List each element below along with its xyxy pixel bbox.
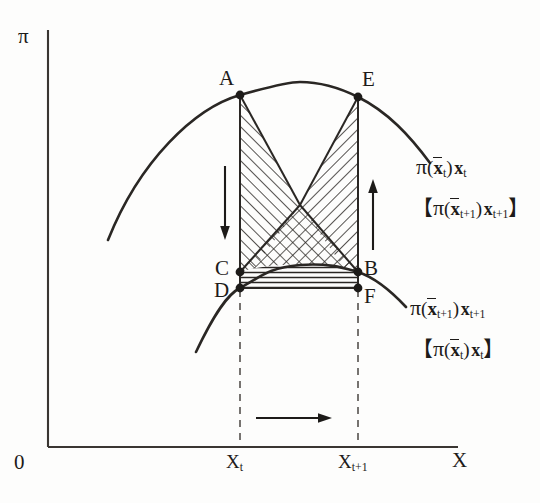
upper-bracket-arg-sub: t+1 [460,208,476,221]
x-tick-xt1-sub: t+1 [352,461,368,474]
lower-curve-bracket-label: 【π(xt) xt】 [412,338,504,362]
point-label-E: E [362,69,375,90]
x-tick-xt-main: X [226,451,240,472]
x-tick-xt1-main: X [338,451,352,472]
upper-bracket-xbar: x [450,199,460,218]
upper-curve-tail-sub: t [463,167,466,180]
upper-curve-label: π(xt) xt [416,156,466,180]
bracket-close-lower: 】 [483,337,504,361]
lower-curve-arg-sub: t+1 [437,308,453,321]
bracket-open-upper: 【 [412,196,433,220]
upper-bracket-pi: π [433,195,444,220]
lower-bracket-pi: π [433,336,444,361]
upper-curve-tail-x: x [454,158,463,178]
lower-curve-pi: π [410,295,421,320]
x-tick-xt1: Xt+1 [338,452,368,474]
down-arrow-left [220,166,230,240]
diagram-canvas [0,0,540,503]
x-axis-label: X [452,450,467,471]
origin-label: 0 [14,452,25,473]
upper-curve-pi: π [416,154,427,179]
y-axis-label: π [18,26,29,47]
lower-curve-tail-sub: t+1 [470,308,486,321]
point-label-D: D [214,280,229,301]
lower-bracket-xbar: x [450,340,460,359]
upper-curve-bracket-label: 【π(xt+1) xt+1】 [412,197,529,221]
x-tick-xt-sub: t [240,461,243,474]
bracket-open-lower: 【 [412,337,433,361]
lower-bracket-tail-x: x [471,340,480,360]
up-arrow-right [368,179,378,250]
lower-curve-label: π(xt+1) xt+1 [410,297,485,321]
bracket-close-upper: 】 [508,196,529,220]
lower-curve-xbar: x [427,299,437,318]
x-tick-xt: Xt [226,452,243,474]
upper-bracket-tail-sub: t+1 [493,208,509,221]
profit-function-diagram: π 0 X Xt Xt+1 A E C D B F π(xt) xt 【π(xt… [0,0,540,503]
right-arrow-bottom [256,413,332,423]
point-label-A: A [219,68,234,89]
point-label-C: C [215,258,229,279]
point-label-B: B [364,258,378,279]
point-label-F: F [364,286,376,307]
lower-curve-tail-x: x [461,299,470,319]
upper-curve-xbar: x [433,158,443,177]
upper-bracket-tail-x: x [484,199,493,219]
